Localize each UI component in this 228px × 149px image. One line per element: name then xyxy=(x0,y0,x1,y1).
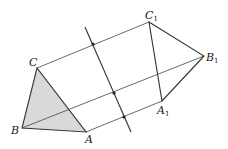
label-c: C xyxy=(29,56,38,69)
label-a1: A1 xyxy=(156,104,169,118)
label-a: A xyxy=(84,133,93,146)
triangle-a1b1c1 xyxy=(149,22,204,101)
midpoint-a-a1 xyxy=(122,115,125,118)
label-c1: C1 xyxy=(145,9,158,23)
triangle-abc xyxy=(22,68,86,132)
midpoint-b-b1 xyxy=(112,91,115,94)
label-b: B xyxy=(10,124,19,137)
midpoint-c-c1 xyxy=(91,42,94,45)
label-b1: B1 xyxy=(205,51,219,65)
reflection-diagram: C B A C1 B1 A1 xyxy=(0,0,228,149)
